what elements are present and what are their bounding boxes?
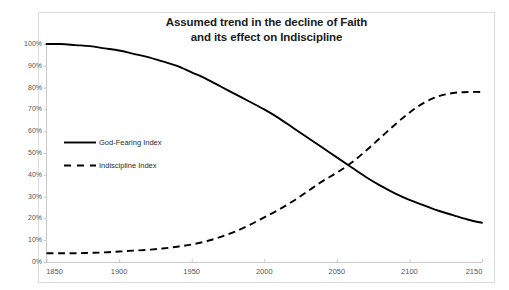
- y-axis-tick-label: 70%: [8, 105, 42, 113]
- x-axis-tick-label: 2000: [244, 267, 284, 276]
- y-axis-tick-label: 50%: [8, 149, 42, 157]
- y-axis-tick-label: 100%: [8, 40, 42, 48]
- y-axis-tick-label: 30%: [8, 193, 42, 201]
- y-axis-tick-label: 80%: [8, 84, 42, 92]
- x-axis-ticks: [47, 259, 483, 262]
- y-axis-tick-label: 10%: [8, 236, 42, 244]
- x-axis-tick-label: 1850: [35, 267, 75, 276]
- y-axis-tick-label: 90%: [8, 62, 42, 70]
- x-axis-tick-label: 1950: [172, 267, 212, 276]
- x-axis-tick-label: 2100: [389, 267, 429, 276]
- y-axis-tick-label: 20%: [8, 214, 42, 222]
- series-line-god-fearing-index: [47, 44, 483, 223]
- legend-label-god-fearing-index: God-Fearing Index: [99, 138, 162, 147]
- x-axis-tick-label: 2150: [454, 267, 494, 276]
- plot-area: [0, 0, 509, 290]
- chart-page: Assumed trend in the decline of Faith an…: [0, 0, 509, 290]
- y-axis-tick-label: 40%: [8, 171, 42, 179]
- series-line-indiscipline-index: [47, 92, 483, 253]
- x-axis-tick-label: 1900: [99, 267, 139, 276]
- x-axis-tick-label: 2050: [317, 267, 357, 276]
- legend-label-indiscipline-index: Indiscipline Index: [99, 161, 157, 170]
- axis-group: [47, 44, 483, 263]
- y-axis-tick-label: 0%: [8, 258, 42, 266]
- y-axis-tick-label: 60%: [8, 127, 42, 135]
